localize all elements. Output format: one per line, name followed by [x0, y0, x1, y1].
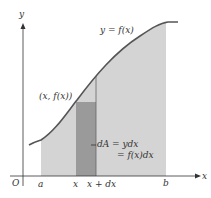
point-label: (x, f(x)) — [39, 92, 72, 101]
tick-label-b: b — [163, 179, 169, 188]
tick-label-a: a — [38, 180, 43, 189]
tick-label-x-plus-dx: x + dx — [87, 180, 116, 189]
y-axis-arrow-icon — [21, 23, 26, 29]
curve-label: y = f(x) — [100, 26, 134, 35]
x-axis-label: x — [202, 172, 207, 181]
y-axis-label: y — [19, 10, 24, 19]
area-under-curve-diagram: y x O y = f(x) (x, f(x)) a x x + dx b dA… — [0, 0, 211, 198]
annotation-line-1: dA = ydx — [97, 140, 138, 149]
origin-label: O — [12, 179, 19, 188]
annotation-line-2: = f(x)dx — [117, 151, 154, 160]
x-axis-arrow-icon — [195, 174, 201, 179]
area-strip — [76, 102, 96, 176]
tick-label-x: x — [73, 180, 78, 189]
